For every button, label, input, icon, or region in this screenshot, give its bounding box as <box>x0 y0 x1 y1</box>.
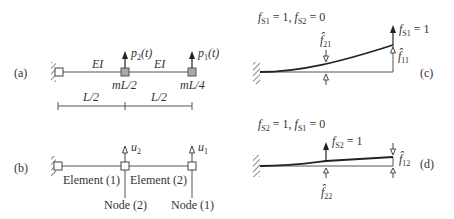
stiffness-arrow-end-up-icon <box>391 168 396 178</box>
dof-arrow-mid-icon <box>123 146 128 162</box>
panel-c: fS1 = 1, fS2 = 0 fS1 = 1 f̂21 f̂11 (c) <box>253 10 433 85</box>
node-1 <box>188 162 196 170</box>
dof-end-label: u1 <box>198 140 208 156</box>
support-node <box>55 68 63 76</box>
dimension-line <box>58 102 192 110</box>
stiffness-arrow-mid-down-icon <box>324 50 329 62</box>
support-node <box>54 162 62 170</box>
panel-c-label: (c) <box>420 66 433 80</box>
stiffness-arrow-mid-up-icon <box>324 74 329 85</box>
stiffness-arrow-mid-up-icon <box>324 168 329 178</box>
load-end-label: p1(t) <box>197 46 219 62</box>
element-2-label: Element (2) <box>130 173 187 187</box>
panel-d-condition: fS2 = 1, fS1 = 0 <box>258 117 325 133</box>
k11-label: f̂11 <box>398 48 409 65</box>
panel-b: (b) u2 u1 Element (1) Element (2) Node (… <box>14 140 214 212</box>
k21-label: f̂21 <box>320 32 331 49</box>
stiffness-left-label: EI <box>91 57 104 71</box>
fixed-support-icon <box>253 62 260 84</box>
mass-mid <box>121 68 129 76</box>
mass-mid-label: mL/2 <box>112 78 137 92</box>
load-arrow-end-icon <box>189 51 195 68</box>
fixed-support-icon <box>253 155 260 177</box>
k22-label: f̂22 <box>321 184 332 201</box>
force-label: fS2 = 1 <box>332 134 363 150</box>
structural-dynamics-diagram: (a) p2(t) p1(t) EI EI mL/2 mL/4 L/2 <box>0 0 454 219</box>
load-arrow-mid-icon <box>122 51 128 68</box>
force-arrow-icon <box>390 25 396 45</box>
load-mid-label: p2(t) <box>130 46 152 62</box>
force-label: fS1 = 1 <box>399 22 430 38</box>
mass-end-label: mL/4 <box>180 78 205 92</box>
mass-end <box>188 68 196 76</box>
panel-c-condition: fS1 = 1, fS2 = 0 <box>258 10 325 26</box>
stiffness-right-label: EI <box>153 57 166 71</box>
dof-arrow-end-icon <box>190 146 195 162</box>
node-2 <box>121 162 129 170</box>
element-1-label: Element (1) <box>63 173 120 187</box>
k12-label: f̂12 <box>399 151 410 168</box>
stiffness-arrow-end-icon <box>391 47 396 53</box>
dim-left-label: L/2 <box>82 90 99 104</box>
panel-b-label: (b) <box>14 161 28 175</box>
panel-d-label: (d) <box>420 157 434 171</box>
node-2-label: Node (2) <box>104 198 147 212</box>
dof-mid-label: u2 <box>131 140 141 156</box>
panel-a-label: (a) <box>14 66 27 80</box>
panel-a: (a) p2(t) p1(t) EI EI mL/2 mL/4 L/2 <box>14 46 219 110</box>
stiffness-arrow-end-down-icon <box>391 143 396 155</box>
force-arrow-icon <box>323 142 329 161</box>
panel-d: fS2 = 1, fS1 = 0 fS2 = 1 f̂12 f̂22 (d) <box>253 117 434 201</box>
dim-right-label: L/2 <box>150 90 167 104</box>
node-1-label: Node (1) <box>171 198 214 212</box>
